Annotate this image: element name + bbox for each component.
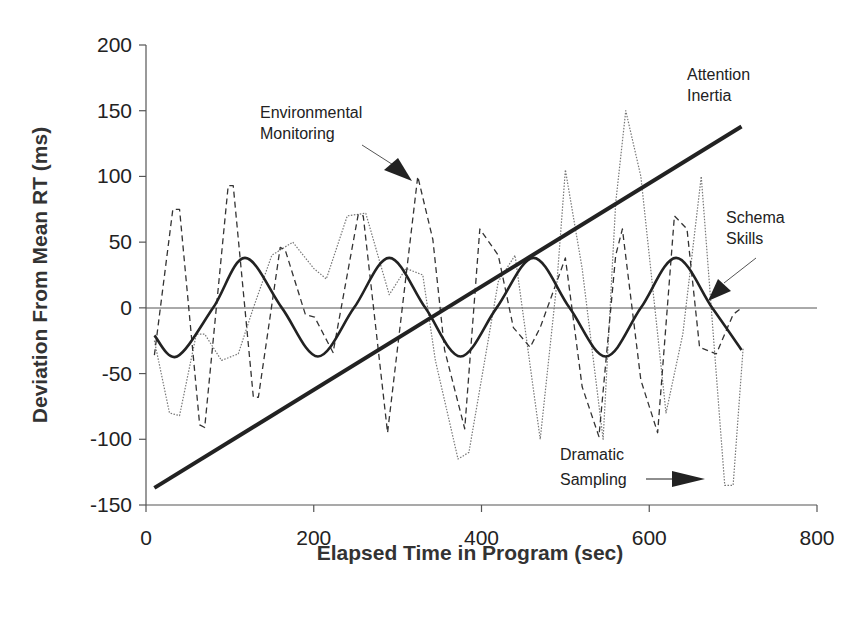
x-tick-label: 600: [632, 526, 667, 549]
y-tick-label: 50: [109, 230, 132, 253]
y-tick-label: 100: [97, 164, 132, 187]
line-chart: -150-100-50050100150200 0200400600800 El…: [0, 0, 864, 620]
y-tick-label: -150: [90, 493, 132, 516]
annotation-schema-skills: Schema Skills: [708, 209, 785, 301]
svg-text:Schema: Schema: [726, 209, 785, 226]
annotation-attention-inertia: Attention Inertia: [687, 66, 750, 104]
svg-text:Dramatic: Dramatic: [560, 446, 624, 463]
svg-text:Environmental: Environmental: [260, 104, 362, 121]
x-tick-label: 800: [799, 526, 834, 549]
annotation-dramatic-sampling: Dramatic Sampling: [560, 446, 705, 488]
series-dramatic-sampling: [154, 111, 743, 486]
y-axis-title: Deviation From Mean RT (ms): [28, 127, 51, 423]
svg-text:Skills: Skills: [726, 230, 763, 247]
svg-text:Inertia: Inertia: [687, 87, 732, 104]
y-tick-label: -100: [90, 427, 132, 450]
arrow-icon: [708, 279, 731, 301]
x-axis-title: Elapsed Time in Program (sec): [317, 541, 624, 564]
y-tick-label: 200: [97, 33, 132, 56]
series-layer: [154, 111, 743, 488]
series-attention-inertia: [154, 126, 741, 487]
annotation-environmental-monitoring: Environmental Monitoring: [260, 104, 412, 181]
y-tick-label: 0: [120, 296, 132, 319]
y-tick-label: -50: [102, 362, 132, 385]
svg-text:Attention: Attention: [687, 66, 750, 83]
y-tick-label: 150: [97, 99, 132, 122]
svg-text:Sampling: Sampling: [560, 471, 627, 488]
arrow-icon: [672, 471, 705, 487]
svg-text:Monitoring: Monitoring: [260, 125, 335, 142]
x-tick-label: 0: [140, 526, 152, 549]
y-axis: -150-100-50050100150200: [90, 33, 146, 516]
